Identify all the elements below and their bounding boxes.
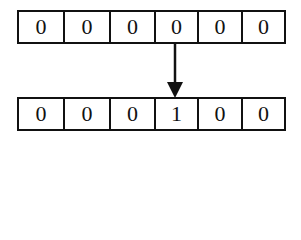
array-cell: 0 bbox=[243, 99, 284, 129]
array-cell: 0 bbox=[111, 99, 156, 129]
array-cell: 0 bbox=[19, 99, 65, 129]
array-cell-highlighted: 1 bbox=[156, 99, 199, 129]
bottom-array-row: 0 0 0 1 0 0 bbox=[17, 97, 286, 131]
array-cell: 0 bbox=[65, 99, 111, 129]
array-cell: 0 bbox=[199, 99, 243, 129]
